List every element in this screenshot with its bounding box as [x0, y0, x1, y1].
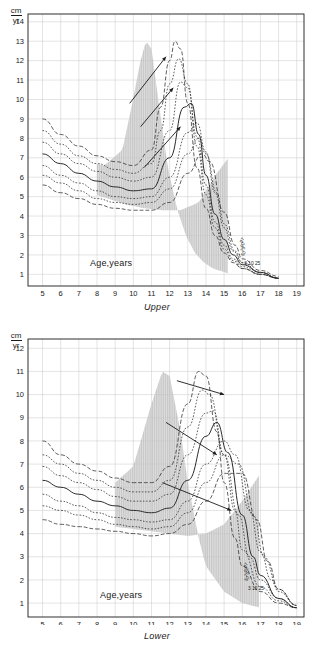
- svg-text:15: 15: [220, 620, 228, 625]
- svg-text:50: 50: [240, 250, 247, 257]
- svg-text:10: 10: [16, 95, 24, 104]
- svg-text:12: 12: [16, 344, 24, 353]
- svg-text:11: 11: [148, 289, 156, 298]
- svg-text:3: 3: [20, 552, 24, 561]
- caption-upper: Upper: [0, 302, 314, 312]
- plot-area-upper: 5678910111213141516171819123456789101112…: [0, 0, 314, 300]
- svg-text:8: 8: [95, 289, 99, 298]
- svg-text:2: 2: [20, 576, 24, 585]
- svg-text:8: 8: [20, 134, 24, 143]
- svg-text:11: 11: [16, 76, 24, 85]
- svg-text:8: 8: [20, 437, 24, 446]
- plot-svg-upper: 5678910111213141516171819123456789101112…: [0, 0, 314, 300]
- svg-text:13: 13: [184, 620, 192, 625]
- svg-text:7: 7: [77, 289, 81, 298]
- svg-text:9: 9: [20, 115, 24, 124]
- svg-text:8: 8: [95, 620, 99, 625]
- svg-text:16: 16: [238, 620, 246, 625]
- svg-text:3 10 25: 3 10 25: [244, 261, 260, 266]
- svg-text:4: 4: [20, 212, 24, 221]
- svg-text:9: 9: [113, 620, 117, 625]
- svg-text:6: 6: [59, 620, 63, 625]
- caption-lower: Lower: [0, 631, 314, 641]
- svg-text:18: 18: [274, 289, 282, 298]
- svg-text:12: 12: [165, 289, 173, 298]
- svg-text:7: 7: [20, 153, 24, 162]
- svg-text:5: 5: [40, 620, 44, 625]
- svg-text:6: 6: [20, 483, 24, 492]
- svg-text:19: 19: [293, 289, 301, 298]
- svg-text:13: 13: [184, 289, 192, 298]
- svg-text:12: 12: [165, 620, 173, 625]
- svg-text:17: 17: [256, 289, 264, 298]
- svg-text:16: 16: [238, 289, 246, 298]
- figure-page: cm yr 5678910111213141516171819123456789…: [0, 0, 314, 658]
- svg-text:11: 11: [148, 620, 156, 625]
- svg-text:5: 5: [40, 289, 44, 298]
- svg-text:11: 11: [16, 367, 24, 376]
- svg-text:3 10 25: 3 10 25: [248, 586, 264, 591]
- svg-text:13: 13: [16, 37, 24, 46]
- svg-text:10: 10: [129, 620, 137, 625]
- chart-lower: cm yr 5678910111213141516171819123456789…: [0, 325, 314, 650]
- svg-text:17: 17: [256, 620, 264, 625]
- svg-text:7: 7: [77, 620, 81, 625]
- svg-text:10: 10: [129, 289, 137, 298]
- svg-text:3: 3: [20, 231, 24, 240]
- svg-text:15: 15: [220, 289, 228, 298]
- svg-text:1: 1: [20, 270, 24, 279]
- chart-upper: cm yr 5678910111213141516171819123456789…: [0, 0, 314, 325]
- svg-text:10: 10: [16, 390, 24, 399]
- svg-text:14: 14: [202, 620, 210, 625]
- svg-text:12: 12: [16, 56, 24, 65]
- age-label-upper: Age,years: [90, 258, 132, 268]
- svg-text:19: 19: [293, 620, 301, 625]
- svg-text:4: 4: [20, 529, 24, 538]
- svg-text:7: 7: [20, 460, 24, 469]
- svg-text:5: 5: [20, 506, 24, 515]
- plot-svg-lower: 5678910111213141516171819123456789101112…: [0, 325, 314, 625]
- svg-text:9: 9: [20, 413, 24, 422]
- svg-text:14: 14: [202, 289, 210, 298]
- svg-text:14: 14: [16, 17, 24, 26]
- age-label-lower: Age,years: [100, 590, 142, 600]
- svg-text:9: 9: [113, 289, 117, 298]
- plot-area-lower: 5678910111213141516171819123456789101112…: [0, 325, 314, 625]
- svg-text:5: 5: [20, 192, 24, 201]
- svg-text:1: 1: [20, 599, 24, 608]
- svg-text:6: 6: [20, 173, 24, 182]
- svg-text:6: 6: [59, 289, 63, 298]
- svg-text:2: 2: [20, 251, 24, 260]
- svg-text:18: 18: [274, 620, 282, 625]
